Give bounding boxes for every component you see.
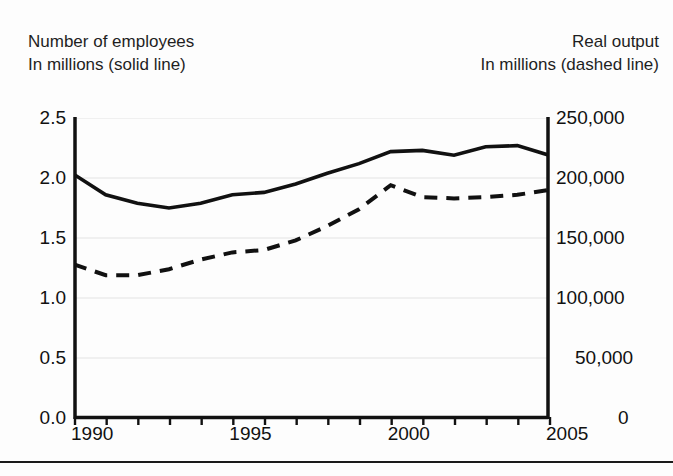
- x-axis-tick-label: 1995: [229, 424, 271, 443]
- right-axis-tick-label: 150,000: [556, 228, 666, 247]
- chart-canvas: [74, 118, 549, 418]
- x-axis-tick-marks: [75, 417, 550, 425]
- left-axis-tick-label: 2.0: [2, 168, 66, 187]
- left-axis-tick-label: 0.0: [2, 408, 66, 427]
- x-axis-tick-label: 1990: [71, 424, 113, 443]
- right-axis-subtitle: In millions (dashed line): [480, 53, 659, 76]
- left-axis-title: Number of employees: [28, 32, 194, 51]
- bottom-divider: [0, 461, 673, 463]
- left-axis-tick-label: 1.0: [2, 288, 66, 307]
- gridlines: [74, 118, 549, 418]
- left-axis-subtitle: In millions (solid line): [28, 53, 194, 76]
- x-axis-tick-label: 2005: [546, 424, 588, 443]
- x-axis-tick-label: 2000: [388, 424, 430, 443]
- left-axis-tick-label: 2.5: [2, 108, 66, 127]
- left-axis-tick-label: 0.5: [2, 348, 66, 367]
- series-line-2: [74, 185, 549, 275]
- right-axis-tick-label: 250,000: [556, 108, 666, 127]
- right-axis-title: Real output: [572, 32, 659, 51]
- right-axis-tick-label: 100,000: [556, 288, 666, 307]
- left-axis-header: Number of employees In millions (solid l…: [28, 30, 194, 76]
- chart-figure: Number of employees In millions (solid l…: [0, 0, 673, 476]
- right-axis-tick-label: 50,000: [556, 348, 666, 367]
- left-axis-tick-label: 1.5: [2, 228, 66, 247]
- right-axis-header: Real output In millions (dashed line): [480, 30, 659, 76]
- plot-area: [74, 118, 549, 418]
- right-axis-tick-label: 200,000: [556, 168, 666, 187]
- data-series-layer: [74, 146, 549, 276]
